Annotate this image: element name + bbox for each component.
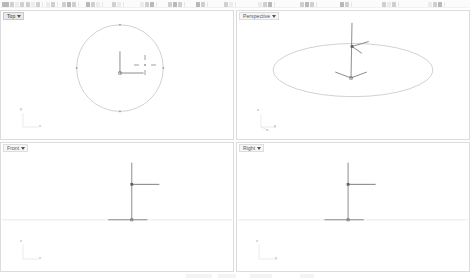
copy-icon[interactable] <box>31 2 35 7</box>
status-bar <box>0 272 470 280</box>
array-icon[interactable] <box>345 2 349 7</box>
viewport-grid: Top <box>0 10 470 272</box>
curve-icon[interactable] <box>150 2 154 7</box>
axis-label-horizontal: x <box>39 124 41 128</box>
undo-icon[interactable] <box>46 2 50 7</box>
chevron-down-icon[interactable] <box>272 15 276 18</box>
toolbar-group <box>168 1 186 7</box>
gizmo-upper-arm-b[interactable] <box>352 46 362 53</box>
toolbar-group <box>2 1 28 7</box>
zoom-extents-icon[interactable] <box>86 2 90 7</box>
solid-icon[interactable] <box>263 2 267 7</box>
gizmo-upper-origin-handle[interactable] <box>351 45 354 48</box>
toolbar-group <box>112 1 125 7</box>
viewport-title-tab-front[interactable]: Front <box>3 144 28 152</box>
toolbar-separator <box>123 2 124 7</box>
polygon-icon[interactable] <box>201 2 205 7</box>
toolbar-separator <box>102 2 103 7</box>
boolean-icon[interactable] <box>268 2 272 7</box>
status-bar-segment <box>186 274 212 278</box>
trim-icon[interactable] <box>382 2 386 7</box>
viewport-front[interactable]: Front z <box>0 142 234 272</box>
layer-icon[interactable] <box>112 2 116 7</box>
viewport-perspective[interactable]: Perspective <box>236 10 470 140</box>
shade-icon[interactable] <box>433 2 437 7</box>
viewport-title-label: Perspective <box>243 13 270 19</box>
viewport-title-label: Top <box>7 13 15 19</box>
new-file-icon[interactable] <box>2 2 9 7</box>
help-icon[interactable] <box>438 2 442 7</box>
arc-icon[interactable] <box>173 2 177 7</box>
pan-icon[interactable] <box>96 2 100 7</box>
invert-selection-icon[interactable] <box>72 2 76 7</box>
viewport-title-label: Right <box>243 145 255 151</box>
zoom-window-icon[interactable] <box>91 2 95 7</box>
viewport-title-tab-top[interactable]: Top <box>3 12 24 20</box>
world-axis-indicator-right: z y <box>255 237 285 263</box>
chevron-down-icon[interactable] <box>21 147 25 150</box>
viewport-right[interactable]: Right z y <box>236 142 470 272</box>
join-icon[interactable] <box>392 2 396 7</box>
control-point[interactable] <box>76 67 78 69</box>
toolbar-group <box>300 1 318 7</box>
properties-icon[interactable] <box>117 2 121 7</box>
toolbar-separator <box>78 2 79 7</box>
gizmo-lower-arm-a[interactable] <box>335 72 351 78</box>
viewport-title-tab-perspective[interactable]: Perspective <box>239 12 279 20</box>
paste-icon[interactable] <box>36 2 40 7</box>
crosshair-move-cursor <box>132 53 158 77</box>
point-icon[interactable] <box>140 2 144 7</box>
control-point[interactable] <box>119 24 121 26</box>
open-folder-icon[interactable] <box>10 2 14 7</box>
viewport-title-tab-right[interactable]: Right <box>239 144 264 152</box>
toolbar-separator <box>235 2 236 7</box>
axis-label-vertical: z <box>257 108 259 112</box>
control-point[interactable] <box>119 111 121 113</box>
control-point[interactable] <box>162 67 164 69</box>
surface-icon[interactable] <box>224 2 228 7</box>
axis-label-horizontal: x <box>39 256 41 260</box>
world-axis-indicator-front: z x <box>19 237 49 263</box>
deselect-icon[interactable] <box>67 2 71 7</box>
cut-icon[interactable] <box>26 2 30 7</box>
gizmo-origin-handle[interactable] <box>130 183 133 186</box>
line-icon[interactable] <box>145 2 149 7</box>
rotate-icon[interactable] <box>305 2 309 7</box>
axis-label-vertical: z <box>256 239 258 243</box>
save-icon[interactable] <box>15 2 19 7</box>
toolbar-group <box>428 1 446 7</box>
toolbar-group <box>258 1 276 7</box>
mirror-icon[interactable] <box>340 2 344 7</box>
extrude-icon[interactable] <box>229 2 233 7</box>
viewport-title-label: Front <box>7 145 19 151</box>
ellipse-icon[interactable] <box>178 2 182 7</box>
gizmo-z-axis[interactable] <box>351 23 352 78</box>
split-icon[interactable] <box>387 2 391 7</box>
redo-icon[interactable] <box>51 2 55 7</box>
print-icon[interactable] <box>20 2 24 7</box>
main-toolbar <box>0 0 470 8</box>
transform-move-icon[interactable] <box>300 2 304 7</box>
gizmo-lower-arm-b[interactable] <box>351 72 367 78</box>
rectangle-icon[interactable] <box>196 2 200 7</box>
render-icon[interactable] <box>428 2 432 7</box>
world-axis-indicator-perspective: z y x <box>255 105 285 131</box>
application-window: Top <box>0 0 470 280</box>
chevron-down-icon[interactable] <box>17 15 21 18</box>
status-bar-segment <box>250 274 272 278</box>
toolbar-group <box>46 1 59 7</box>
gizmo-origin-handle[interactable] <box>347 183 350 186</box>
toolbar-group <box>86 1 104 7</box>
chevron-down-icon[interactable] <box>257 147 261 150</box>
axis-label-vertical: z <box>20 239 22 243</box>
axis-label-vertical: y <box>20 107 22 111</box>
circle-icon[interactable] <box>168 2 172 7</box>
axis-label-depth: x <box>266 128 268 132</box>
toolbar-group <box>340 1 353 7</box>
scale-icon[interactable] <box>310 2 314 7</box>
select-icon[interactable] <box>62 2 66 7</box>
mesh-icon[interactable] <box>258 2 262 7</box>
toolbar-group <box>140 1 158 7</box>
viewport-top[interactable]: Top <box>0 10 234 140</box>
toolbar-group <box>62 1 80 7</box>
